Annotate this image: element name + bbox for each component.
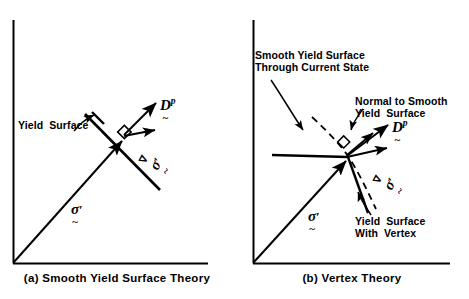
normal-to-smooth-label: Normal to Smooth Yield Surface (355, 96, 448, 119)
under-tilde: ~ (308, 225, 316, 231)
plastic-strain-rate-arrow (347, 125, 388, 156)
vertex-branch-left (272, 155, 348, 157)
stress-vector-symbol: σ~′ (71, 200, 83, 218)
figure-root: Yield Surface D~p σ~∇′ σ~′ (a) Smooth Yi… (0, 0, 469, 299)
under-tilde: ~ (160, 114, 171, 120)
panel-vertex-theory: Smooth Yield Surface Through Current Sta… (235, 0, 469, 299)
symbol-prime: ′ (316, 209, 320, 224)
symbol-superscript: p (171, 96, 176, 106)
yield-surface-vertex-label: Yield Surface With Vertex (355, 216, 425, 239)
panel-smooth-yield-surface: Yield Surface D~p σ~∇′ σ~′ (a) Smooth Yi… (0, 0, 234, 299)
smooth-yield-surface-pointer (271, 80, 303, 130)
yield-surface-label: Yield Surface (18, 120, 88, 132)
under-tilde: ~ (392, 136, 403, 142)
plastic-strain-rate-symbol: D~p (160, 96, 176, 114)
stress-vector-arrow (14, 141, 122, 262)
under-tilde: ~ (71, 218, 79, 224)
panel-b-drawing (235, 0, 469, 299)
panel-b-caption: (b) Vertex Theory (235, 272, 469, 284)
stress-vector-arrow (254, 161, 346, 262)
smooth-yield-surface-label: Smooth Yield Surface Through Current Sta… (255, 50, 369, 73)
symbol-prime: ′ (79, 202, 83, 217)
symbol-superscript: p (403, 118, 408, 128)
yield-surface-line (85, 114, 160, 190)
panel-a-drawing (0, 0, 234, 299)
plastic-strain-rate-symbol: D~p (392, 118, 408, 136)
panel-a-caption: (a) Smooth Yield Surface Theory (0, 272, 234, 284)
axes-group (13, 20, 208, 264)
stress-vector-symbol: σ~′ (308, 207, 320, 225)
